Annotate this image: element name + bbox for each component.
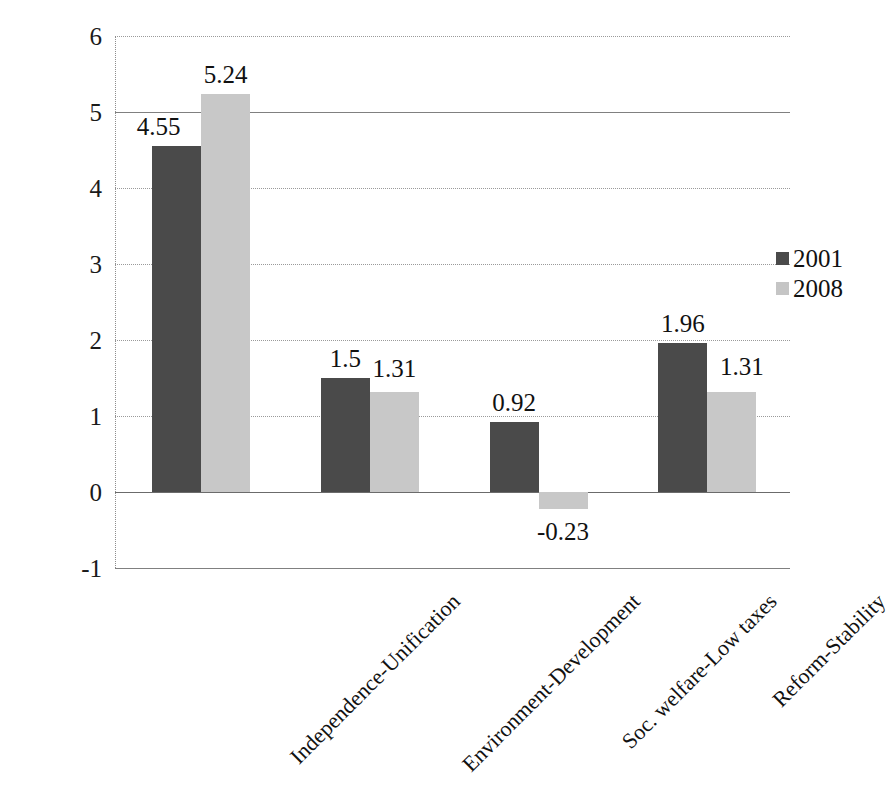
category-label-0: Independence-Unification [286, 590, 464, 768]
legend-item-2001[interactable]: 2001 [776, 243, 862, 273]
category-label-2: Soc. welfare-Low taxes [618, 590, 781, 753]
category-label-1: Environment-Development [458, 590, 644, 776]
legend-swatch-icon [776, 282, 789, 295]
category-label-3: Reform-Stability [769, 590, 890, 711]
legend-label: 2008 [793, 276, 843, 301]
legend: 20012008 [776, 243, 862, 303]
legend-item-2008[interactable]: 2008 [776, 273, 862, 303]
legend-label: 2001 [793, 246, 843, 271]
legend-swatch-icon [776, 252, 789, 265]
